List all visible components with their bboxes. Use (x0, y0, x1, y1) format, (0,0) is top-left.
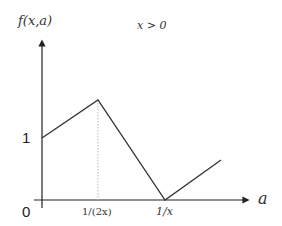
function-curve (42, 100, 221, 200)
diagram-canvas: f(x,a) x > 0 1 0 1/(2x) 1/x a (0, 0, 282, 226)
y-tick-one: 1 (22, 129, 30, 146)
y-axis-label: f(x,a) (17, 13, 52, 28)
origin-label: 0 (22, 203, 30, 220)
x-tick-half: 1/(2x) (82, 206, 112, 217)
x-axis-label: a (258, 189, 268, 208)
condition-label: x > 0 (137, 19, 166, 32)
x-tick-full: 1/x (156, 205, 174, 218)
